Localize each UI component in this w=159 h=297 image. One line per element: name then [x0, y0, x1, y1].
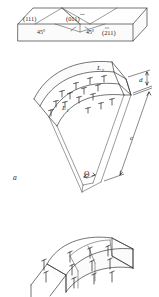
- label-arc-L1-subscript: 1: [67, 108, 69, 113]
- dim-c-arrow-top: [147, 92, 151, 96]
- dislocation-arrow: [44, 271, 48, 282]
- dim-c-ext-lower: [104, 174, 124, 181]
- dim-c-ext-upper: [133, 88, 152, 95]
- dislocation-mark: [77, 96, 82, 103]
- dislocation-mark: [82, 87, 87, 94]
- dimension-c: c: [104, 88, 152, 181]
- crystal-bending-figure: (111) (011) 45° 45° (211): [0, 0, 159, 297]
- dislocation-mark: [99, 102, 104, 109]
- label-arc-L1-group: L 1: [61, 104, 69, 113]
- label-plane-111: (111): [23, 15, 36, 23]
- wedge-wall-left: [57, 126, 83, 185]
- wedge-apex-left-tick: [82, 185, 83, 192]
- dislocation-mark: [96, 84, 101, 91]
- panel-label-a: a: [13, 173, 17, 182]
- label-arc-L2: L: [96, 64, 101, 72]
- dim-c-line: [120, 92, 149, 175]
- wedge-wall-right-outer: [101, 95, 131, 182]
- dislocation-arrow: [92, 273, 96, 284]
- slab-top-face: [18, 8, 147, 24]
- slab-front-face: [18, 24, 133, 41]
- label-wedge-angle-theta: Θ: [84, 170, 90, 179]
- wedge-wall-right: [93, 95, 124, 183]
- panel-segmented-bent-bar: [31, 237, 133, 297]
- wedge-apex-base: [83, 183, 93, 185]
- label-thickness-d: d: [139, 76, 143, 84]
- bar-arrow-column-1: [42, 259, 48, 282]
- figure-root: (111) (011) 45° 45° (211): [0, 0, 159, 297]
- panel-bent-wedge-crystal: Θ: [13, 61, 152, 192]
- dislocation-row-4: [86, 98, 115, 113]
- label-arc-L1: L: [61, 104, 66, 112]
- wedge-wall-left-outer: [49, 117, 82, 192]
- dislocation-mark: [110, 98, 115, 105]
- label-angle-left: 45°: [37, 29, 46, 35]
- dislocation-arrow: [110, 271, 114, 282]
- dislocation-mark: [86, 107, 91, 113]
- label-length-c: c: [130, 134, 134, 142]
- label-plane-011: (011): [66, 15, 80, 23]
- panel-slab-with-miller-indices: (111) (011) 45° 45° (211): [18, 8, 147, 41]
- label-plane-211: (211): [102, 29, 116, 37]
- label-angle-right: 45°: [86, 29, 95, 35]
- dislocation-arrow: [42, 259, 46, 270]
